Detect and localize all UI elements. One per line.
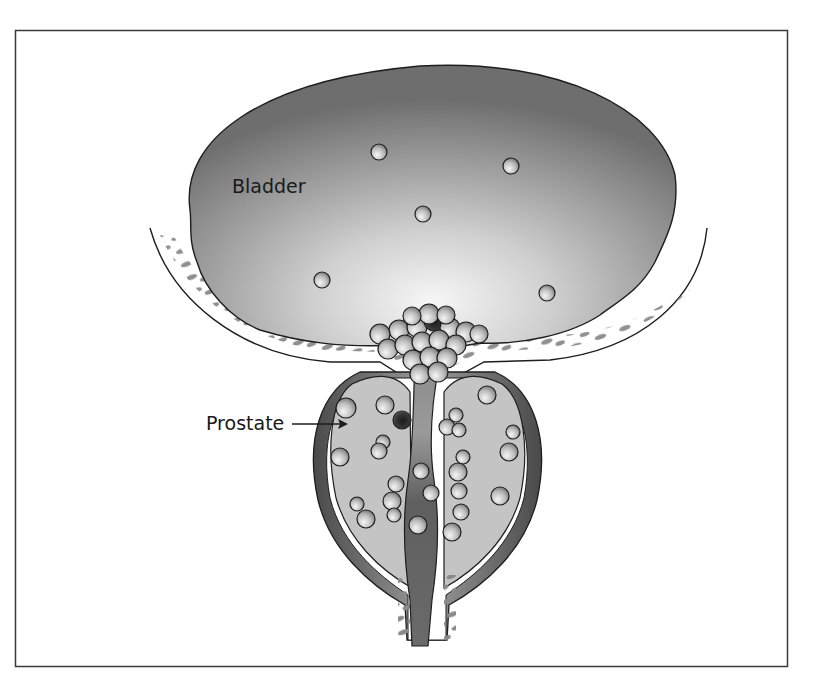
stone [453,504,469,520]
stone [428,362,448,382]
stone [413,463,429,479]
stone [383,492,401,510]
stone [403,307,421,325]
stone [357,510,375,528]
stone [443,523,461,541]
stone [491,487,509,505]
stone [331,448,349,466]
stone [478,386,496,404]
stone [452,423,466,437]
stone [371,443,387,459]
stone [393,411,411,429]
stone [415,206,431,222]
stone [409,516,427,534]
stone [371,144,387,160]
stone [388,476,404,492]
stone [500,443,518,461]
stone [503,158,519,174]
stone [314,272,330,288]
stone [456,450,470,464]
stone [419,304,439,324]
stone [376,396,394,414]
bladder-prostate-illustration: Bladder Prostate [0,0,815,692]
bladder-label: Bladder [232,175,306,197]
stone [410,364,430,384]
stone [387,508,401,522]
stone [423,485,439,501]
stone [539,285,555,301]
stone [437,306,455,324]
stone [350,497,364,511]
stone [336,398,356,418]
stone [449,463,467,481]
prostate-label: Prostate [206,412,284,434]
stone [506,425,520,439]
stone [451,483,467,499]
stone [470,325,488,343]
